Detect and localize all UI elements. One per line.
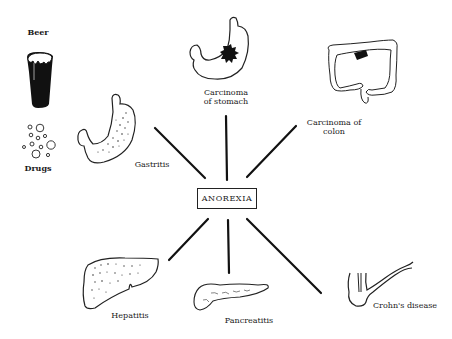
label-carcinoma-colon-line2: colon <box>304 127 364 136</box>
label-gastritis: Gastritis <box>132 160 172 169</box>
label-crohns: Crohn's disease <box>373 301 433 310</box>
gastritis-stomach-icon <box>78 94 135 162</box>
connector-gastritis <box>155 128 205 178</box>
pancreas-icon <box>194 284 268 310</box>
diagram-canvas <box>0 0 452 339</box>
label-drugs: Drugs <box>24 164 52 173</box>
label-carcinoma-stomach-line2: of stomach <box>196 97 256 106</box>
carcinoma-stomach-icon <box>190 17 248 79</box>
colon-icon <box>328 40 397 103</box>
connector-crohns <box>247 219 321 293</box>
connector-carcinoma-stomach <box>226 116 227 180</box>
label-carcinoma-colon: Carcinoma of colon <box>304 118 364 136</box>
label-carcinoma-stomach-line1: Carcinoma <box>196 88 256 97</box>
anorexia-label: ANOREXIA <box>202 194 253 203</box>
beer-glass-icon <box>27 52 53 108</box>
label-hepatitis: Hepatitis <box>110 311 150 320</box>
connector-carcinoma-colon <box>247 126 296 177</box>
label-carcinoma-colon-line1: Carcinoma of <box>304 118 364 127</box>
crohns-intestine-icon <box>348 262 413 306</box>
label-carcinoma-stomach: Carcinoma of stomach <box>196 88 256 106</box>
anorexia-center-box: ANOREXIA <box>197 188 257 209</box>
label-pancreatitis: Pancreatitis <box>224 316 274 325</box>
drugs-pills-icon <box>23 124 56 158</box>
label-beer: Beer <box>26 28 50 37</box>
connector-hepatitis <box>169 219 208 260</box>
connector-pancreatitis <box>228 220 229 273</box>
liver-hepatitis-icon <box>83 258 158 309</box>
